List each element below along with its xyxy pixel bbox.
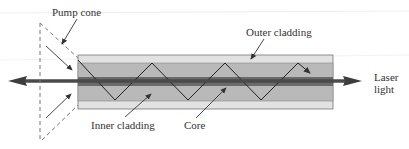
- arrowhead-right-icon: [343, 76, 362, 86]
- label-inner-cladding: Inner cladding: [91, 119, 155, 131]
- pump-arrow-bottom: [46, 94, 71, 118]
- label-core: Core: [184, 119, 206, 131]
- label-outer-cladding: Outer cladding: [246, 26, 312, 38]
- arrowhead-left-icon: [8, 76, 27, 86]
- label-pump-cone: Pump cone: [52, 6, 101, 18]
- fiber-laser-diagram: Pump cone Outer cladding Inner cladding …: [0, 0, 409, 149]
- pump-arrow-top: [46, 46, 72, 70]
- label-light: light: [374, 83, 394, 95]
- label-laser: Laser: [374, 71, 399, 83]
- pump-cone-leader: [62, 19, 77, 44]
